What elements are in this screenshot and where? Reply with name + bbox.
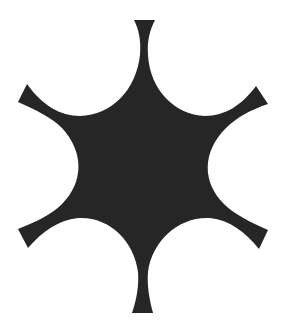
six-pointed-concave-star-icon (0, 0, 284, 332)
star-shape (18, 20, 268, 313)
figure-canvas (0, 0, 284, 332)
